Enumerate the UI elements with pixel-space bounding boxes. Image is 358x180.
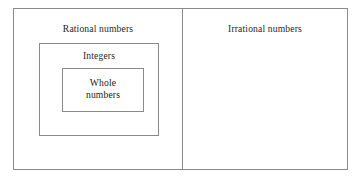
integers-box: Integers Whole numbers <box>39 43 159 136</box>
irrational-numbers-label: Irrational numbers <box>183 23 347 35</box>
number-sets-diagram: Rational numbers Integers Whole numbers … <box>0 0 358 180</box>
whole-numbers-label-line-1: Whole <box>63 77 143 89</box>
rational-numbers-label: Rational numbers <box>14 23 182 35</box>
irrational-numbers-panel: Irrational numbers <box>183 9 347 169</box>
whole-numbers-label-line-2: numbers <box>63 89 143 101</box>
rational-numbers-panel: Rational numbers Integers Whole numbers <box>14 9 182 169</box>
real-numbers-outer-box: Rational numbers Integers Whole numbers … <box>13 8 348 170</box>
whole-numbers-box: Whole numbers <box>62 68 144 112</box>
whole-numbers-label: Whole numbers <box>63 77 143 100</box>
integers-label: Integers <box>40 50 158 62</box>
